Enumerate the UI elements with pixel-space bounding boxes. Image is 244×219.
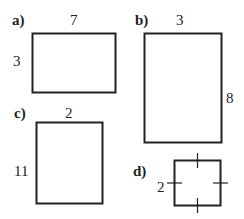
part-label-b: b) [135, 13, 148, 28]
part-label-c: c) [14, 106, 26, 121]
side-label-d: 2 [157, 180, 165, 195]
side-label-b: 8 [226, 91, 234, 106]
rectangle-b [145, 34, 222, 143]
top-label-a: 7 [70, 13, 78, 28]
top-label-c: 2 [65, 106, 73, 121]
side-label-a: 3 [13, 54, 21, 69]
part-label-d: d) [133, 164, 146, 179]
rectangle-c [37, 123, 103, 204]
side-label-c: 11 [14, 164, 28, 179]
figures-canvas [0, 0, 244, 219]
tick-marks-d [167, 153, 228, 213]
rectangle-a [33, 34, 116, 93]
top-label-b: 3 [176, 13, 184, 28]
part-label-a: a) [12, 13, 25, 28]
